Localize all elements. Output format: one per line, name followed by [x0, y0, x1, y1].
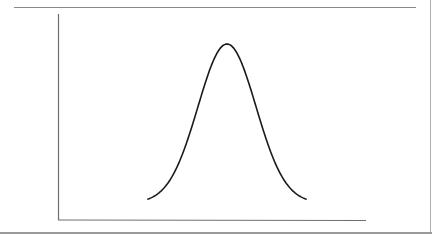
x-axis — [58, 220, 366, 221]
bottom-rule — [0, 232, 432, 234]
bell-curve-diagram — [0, 0, 432, 234]
bell-curve — [148, 44, 306, 199]
